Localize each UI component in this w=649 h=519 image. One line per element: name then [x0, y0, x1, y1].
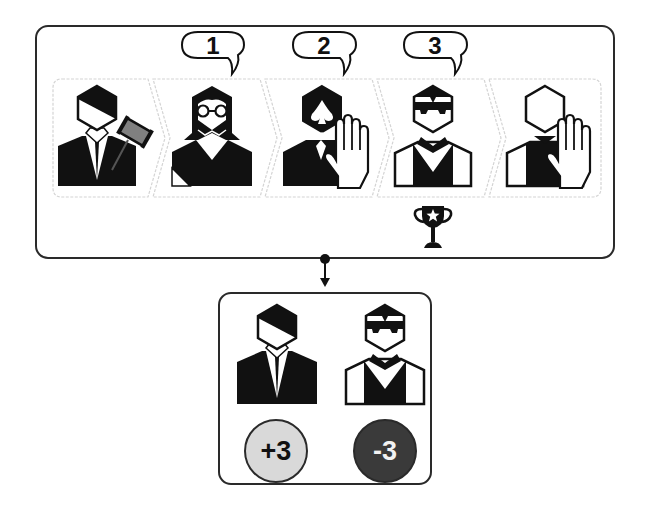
result-canvas [0, 0, 649, 519]
score-negative-label: -3 [353, 419, 417, 483]
score-positive-label: +3 [244, 419, 308, 483]
bubble-number-1: 1 [183, 32, 243, 60]
dealer-sunglasses-icon [346, 305, 424, 404]
bubble-number-3: 3 [405, 32, 465, 60]
judge-icon [237, 305, 317, 404]
bubble-number-2: 2 [294, 32, 354, 60]
